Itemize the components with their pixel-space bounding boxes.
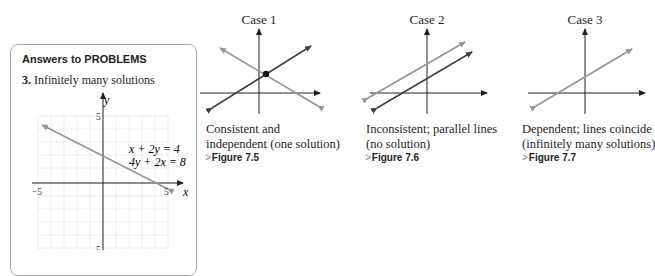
case-1-title: Case 1 — [209, 12, 309, 28]
y-axis-label: y — [103, 93, 110, 107]
figref-marker-icon: > — [522, 152, 528, 163]
figure-7-7-link[interactable]: >Figure 7.7 — [522, 152, 576, 163]
case-2-caption: Inconsistent; parallel lines (no solutio… — [366, 122, 497, 152]
y-max-label: 5 — [96, 112, 101, 122]
case-2-caption-line2: (no solution) — [366, 137, 497, 152]
x-axis-label: x — [182, 185, 189, 199]
x-min-label: −5 — [32, 187, 42, 197]
case-3-caption: Dependent; lines coincide (infinitely ma… — [522, 122, 655, 152]
case-1-caption-line2: independent (one solution) — [206, 137, 340, 152]
case-3-graph — [528, 29, 645, 114]
case-2-graph — [368, 29, 487, 114]
case-1-caption-line1: Consistent and — [206, 122, 340, 137]
figure-7-6-link[interactable]: >Figure 7.6 — [365, 152, 419, 163]
case-3-title: Case 3 — [535, 12, 635, 28]
figref-marker-icon: > — [205, 152, 211, 163]
equation-2: 4y + 2x = 8 — [129, 155, 186, 169]
x-max-label: 5 — [164, 187, 169, 197]
figure-ref-label: Figure 7.5 — [212, 152, 259, 163]
case-1-caption: Consistent and independent (one solution… — [206, 122, 340, 152]
figure-7-5-link[interactable]: >Figure 7.5 — [205, 152, 259, 163]
figure-ref-label: Figure 7.6 — [372, 152, 419, 163]
case-3-caption-line2: (infinitely many solutions) — [522, 137, 655, 152]
case-2-caption-line1: Inconsistent; parallel lines — [366, 122, 497, 137]
case-2-title: Case 2 — [377, 12, 477, 28]
equation-1: x + 2y = 4 — [128, 142, 180, 156]
y-min-label: 5 — [96, 245, 101, 250]
case-3-caption-line1: Dependent; lines coincide — [522, 122, 655, 137]
figref-marker-icon: > — [365, 152, 371, 163]
case-1-graph — [200, 29, 320, 114]
figure-ref-label: Figure 7.7 — [529, 152, 576, 163]
